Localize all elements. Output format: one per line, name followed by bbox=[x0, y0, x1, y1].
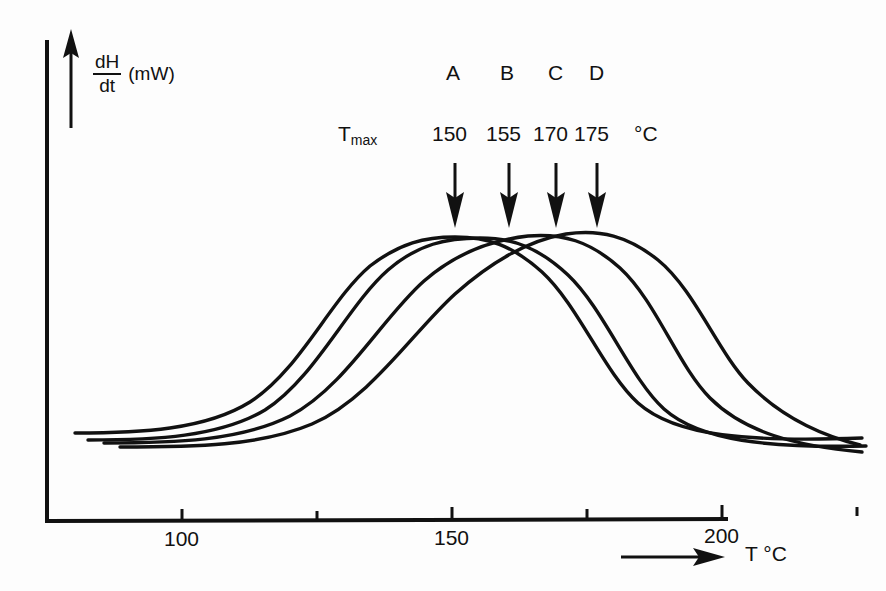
y-axis-denominator: dt bbox=[97, 76, 117, 96]
tmax-value-c: 170 bbox=[533, 123, 568, 144]
curve-D bbox=[120, 232, 860, 447]
tmax-value-d: 175 bbox=[574, 123, 609, 144]
y-axis-arrow-icon bbox=[63, 29, 79, 128]
tmax-subscript: max bbox=[351, 132, 377, 148]
tmax-value-b: 155 bbox=[486, 123, 521, 144]
tmax-arrow-A bbox=[446, 163, 464, 228]
curve-C bbox=[104, 235, 862, 452]
tmax-arrow-B bbox=[500, 163, 518, 228]
tmax-pointer-arrows bbox=[446, 163, 606, 228]
tmax-arrow-D bbox=[588, 163, 606, 228]
x-axis-arrow-icon bbox=[619, 545, 729, 569]
curve-letter-d: D bbox=[589, 62, 604, 83]
curve-A bbox=[75, 237, 862, 439]
figure-container: dH dt (mW) A B C D Tmax 150 155 170 175 … bbox=[0, 0, 886, 591]
curve-group bbox=[75, 232, 866, 452]
curve-B bbox=[88, 238, 866, 446]
x-tick-label-200: 200 bbox=[704, 525, 739, 546]
x-tick-label-150: 150 bbox=[434, 527, 469, 548]
curve-letter-c: C bbox=[548, 62, 563, 83]
tmax-unit-label: °C bbox=[634, 123, 658, 144]
tmax-value-a: 150 bbox=[432, 123, 467, 144]
tmax-symbol: T bbox=[338, 122, 351, 145]
y-axis-unit: (mW) bbox=[128, 63, 174, 85]
tmax-row-label: Tmax bbox=[338, 123, 377, 144]
x-tick-label-100: 100 bbox=[164, 528, 199, 549]
tmax-arrow-C bbox=[547, 163, 565, 228]
y-axis-derivative-fraction: dH dt bbox=[93, 52, 121, 96]
x-axis-label: T °C bbox=[745, 543, 787, 564]
curve-letter-a: A bbox=[446, 62, 460, 83]
y-axis-numerator: dH bbox=[93, 52, 121, 72]
y-axis-label: dH dt (mW) bbox=[93, 52, 175, 96]
curve-letter-b: B bbox=[500, 62, 514, 83]
x-axis-line bbox=[47, 519, 726, 521]
